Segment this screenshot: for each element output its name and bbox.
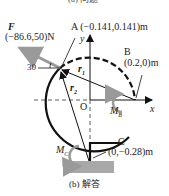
caption-top: (a) 问题 — [68, 0, 98, 4]
y-axis-label: y — [80, 34, 84, 44]
point-b-name: B — [124, 47, 131, 57]
force-value: (−86.6,50)N — [5, 32, 55, 42]
r2-label: r2 — [70, 83, 77, 97]
origin-label: O — [80, 102, 87, 112]
angle-label: 30 — [27, 62, 36, 72]
x-axis-label: x — [150, 104, 154, 114]
moment-c-label: MC — [56, 145, 68, 159]
leader-C — [93, 152, 106, 158]
r1-label: r1 — [78, 64, 85, 78]
point-a-label: A (−0.141,0.141)m — [71, 22, 148, 32]
moment-b-label: MB — [110, 106, 122, 120]
fixed-support — [68, 161, 114, 173]
force-arrow — [20, 48, 60, 68]
leader-B — [136, 75, 142, 98]
point-c-coords: (0,−0.28)m — [108, 147, 153, 157]
point-b-coords: (0.2,0)m — [124, 58, 158, 68]
caption-bottom: (b) 解答 — [69, 179, 100, 189]
